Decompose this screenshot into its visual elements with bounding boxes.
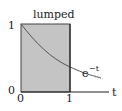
lumped-diagram: lumped 1 0 0 1 t e −t: [0, 0, 122, 111]
y-tick-1: 1: [8, 19, 15, 32]
chart-title: lumped: [33, 8, 75, 21]
y-tick-0: 0: [8, 84, 15, 97]
curve-label-exponent: −t: [89, 64, 100, 73]
x-tick-1: 1: [66, 92, 73, 105]
curve-label-base: e: [82, 67, 89, 80]
x-axis-label: t: [112, 86, 117, 99]
lumped-rectangle: [21, 24, 70, 92]
x-tick-0: 0: [17, 92, 24, 105]
